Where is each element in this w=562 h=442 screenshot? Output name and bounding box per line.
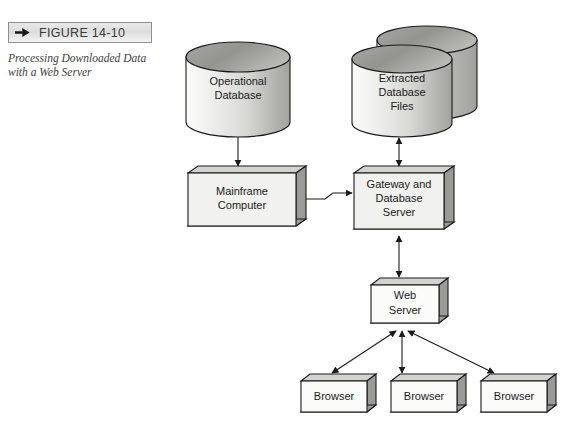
mainframe-computer-label-line-2: Computer	[218, 199, 267, 211]
browser-3-label: Browser	[494, 390, 535, 402]
operational-database-label-line-2: Database	[214, 89, 261, 101]
node-browser-1[interactable]: Browser	[301, 374, 376, 412]
extracted-database-files-label-line-2: Database	[378, 86, 425, 98]
node-mainframe-computer[interactable]: Mainframe Computer	[188, 166, 306, 226]
extracted-database-files-label-line-3: Files	[390, 100, 414, 112]
diagram-canvas: Operational Database Extracted Database …	[0, 0, 562, 442]
extracted-database-files-front-cylinder-top	[352, 45, 452, 73]
gateway-database-server-box-top	[354, 166, 454, 173]
edge-webserver-to-browser-1	[332, 331, 396, 373]
edge-webserver-to-browser-3	[408, 331, 494, 373]
browser-1-box-top	[301, 374, 376, 381]
operational-database-cylinder-top	[186, 42, 290, 72]
browser-1-label: Browser	[314, 390, 355, 402]
web-server-label-line-1: Web	[394, 289, 416, 301]
gateway-database-server-box-side	[444, 166, 454, 229]
gateway-database-server-label-line-1: Gateway and	[367, 178, 432, 190]
operational-database-label-line-1: Operational	[210, 75, 267, 87]
browser-2-box-top	[391, 374, 466, 381]
extracted-database-files-label-line-1: Extracted	[379, 72, 425, 84]
web-server-label-line-2: Server	[389, 304, 422, 316]
node-browser-3[interactable]: Browser	[481, 374, 556, 412]
gateway-database-server-label-line-2: Database	[375, 192, 422, 204]
browser-2-label: Browser	[404, 390, 445, 402]
web-server-box-top	[371, 278, 448, 285]
mainframe-computer-box-side	[296, 166, 306, 226]
gateway-database-server-label-line-3: Server	[383, 206, 416, 218]
browser-3-box-top	[481, 374, 556, 381]
mainframe-computer-box-top	[188, 166, 306, 173]
node-browser-2[interactable]: Browser	[391, 374, 466, 412]
node-gateway-database-server[interactable]: Gateway and Database Server	[354, 166, 454, 229]
node-operational-database[interactable]: Operational Database	[186, 42, 290, 137]
node-web-server[interactable]: Web Server	[371, 278, 448, 323]
node-extracted-database-files[interactable]: Extracted Database Files	[352, 26, 477, 137]
figure-page: FIGURE 14-10 Processing Downloaded Data …	[0, 0, 562, 442]
mainframe-computer-label-line-1: Mainframe	[216, 185, 268, 197]
